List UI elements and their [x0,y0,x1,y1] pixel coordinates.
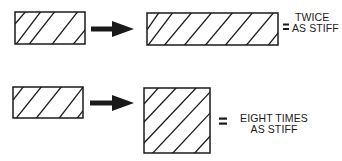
row1-result-label: TWICE AS STIFF [292,12,339,34]
stiffness-diagram [0,0,342,161]
row2-result-line2: AS STIFF [240,124,308,135]
row2-arrow-icon [90,95,134,111]
row2-result-label: EIGHT TIMES AS STIFF [240,113,308,135]
row2-original-beam [13,86,86,121]
row2-deeper-beam [143,86,212,156]
row1-original-beam [14,10,90,47]
row2-equals-icon [219,118,227,125]
row1-arrow-icon [91,21,134,37]
row1-longer-beam [146,11,282,48]
row1-result-line2: AS STIFF [292,23,339,34]
row1-equals-icon [283,24,289,31]
